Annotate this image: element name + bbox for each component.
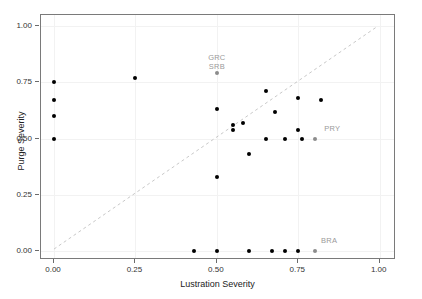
data-point (296, 249, 300, 253)
data-point (296, 96, 300, 100)
data-point (192, 249, 196, 253)
x-tick (297, 259, 298, 263)
data-point (247, 152, 251, 156)
gridline-horizontal (41, 139, 394, 140)
data-point (52, 80, 56, 84)
data-point (300, 137, 304, 141)
data-point (215, 71, 219, 75)
data-point (264, 137, 268, 141)
data-point (283, 137, 287, 141)
gridline-horizontal (41, 82, 394, 83)
data-point (52, 114, 56, 118)
data-point (296, 128, 300, 132)
data-point (52, 137, 56, 141)
y-tick (35, 81, 39, 82)
data-point (133, 76, 137, 80)
gridline-horizontal (41, 26, 394, 27)
x-axis-label: Lustration Severity (40, 279, 395, 289)
data-point (264, 89, 268, 93)
data-point (231, 123, 235, 127)
gridline-vertical (135, 15, 136, 258)
y-axis-label: Purge Severity (16, 76, 26, 206)
data-point (215, 175, 219, 179)
scatter-chart: GRCSRBPRYBRA 0.000.250.500.751.00 0.000.… (0, 0, 422, 299)
data-point (215, 107, 219, 111)
data-point (270, 249, 274, 253)
x-tick-label: 0.25 (127, 265, 143, 274)
data-point (247, 249, 251, 253)
x-tick-label: 0.75 (289, 265, 305, 274)
y-tick (35, 25, 39, 26)
gridline-vertical (380, 15, 381, 258)
point-label-srb: SRB (209, 63, 225, 71)
point-label-pry: PRY (324, 125, 340, 133)
x-tick (134, 259, 135, 263)
y-tick-label: 0.00 (2, 246, 32, 255)
data-point (313, 249, 317, 253)
y-tick-label: 1.00 (2, 21, 32, 30)
y-tick (35, 194, 39, 195)
gridline-vertical (217, 15, 218, 258)
data-point (231, 128, 235, 132)
point-label-grc: GRC (208, 54, 225, 62)
plot-area: GRCSRBPRYBRA (40, 14, 395, 259)
data-point (273, 110, 277, 114)
data-point (215, 249, 219, 253)
y-tick (35, 250, 39, 251)
x-tick (53, 259, 54, 263)
x-tick-label: 0.00 (45, 265, 61, 274)
data-point (241, 121, 245, 125)
gridline-vertical (298, 15, 299, 258)
x-tick (379, 259, 380, 263)
y-tick (35, 138, 39, 139)
data-point (319, 98, 323, 102)
x-tick (216, 259, 217, 263)
data-point (313, 137, 317, 141)
data-point (52, 98, 56, 102)
x-tick-label: 1.00 (371, 265, 387, 274)
data-point (283, 249, 287, 253)
gridline-horizontal (41, 195, 394, 196)
x-tick-label: 0.50 (208, 265, 224, 274)
point-label-bra: BRA (321, 237, 337, 245)
